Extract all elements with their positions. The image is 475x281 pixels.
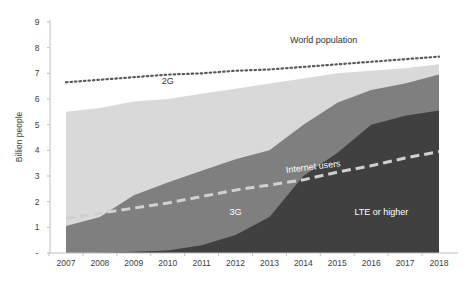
y-tick-label: 6: [35, 94, 40, 104]
x-tick-label: 2015: [328, 258, 347, 268]
chart-areas: [66, 64, 439, 253]
y-tick-label: 5: [35, 120, 40, 130]
y-tick-label: 4: [35, 145, 40, 155]
label-2g: 2G: [162, 76, 174, 86]
x-axis-ticks: 2007200820092010201120122013201420152016…: [49, 253, 449, 268]
y-axis-ticks: -123456789: [35, 17, 50, 258]
label-lte-or-higher: LTE or higher: [354, 207, 408, 217]
x-tick-label: 2016: [362, 258, 381, 268]
y-tick-label: 3: [35, 171, 40, 181]
y-tick-label: 8: [35, 43, 40, 53]
x-tick-label: 2008: [90, 258, 109, 268]
y-tick-label: 7: [35, 68, 40, 78]
x-tick-label: 2011: [192, 258, 211, 268]
x-tick-label: 2014: [294, 258, 313, 268]
x-tick-label: 2013: [260, 258, 279, 268]
y-tick-label: 2: [35, 197, 40, 207]
y-tick-label: 9: [35, 17, 40, 27]
chart: -123456789 20072008200920102011201220132…: [0, 0, 475, 281]
x-tick-label: 2009: [124, 258, 143, 268]
x-tick-label: 2012: [226, 258, 245, 268]
x-tick-label: 2017: [396, 258, 415, 268]
label-3g: 3G: [230, 207, 242, 217]
y-axis-label: Billion people: [14, 111, 24, 162]
label-world-population: World population: [290, 35, 357, 45]
x-tick-label: 2018: [430, 258, 449, 268]
x-tick-label: 2010: [158, 258, 177, 268]
x-tick-label: 2007: [57, 258, 76, 268]
y-tick-label: -: [36, 248, 39, 258]
y-tick-label: 1: [35, 222, 40, 232]
